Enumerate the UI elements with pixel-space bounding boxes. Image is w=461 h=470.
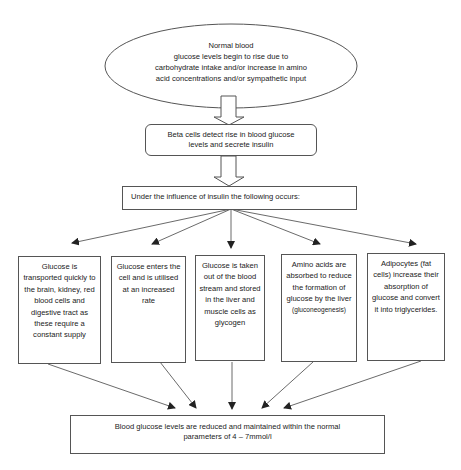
start-node-line: glucose levels begin to rise due to	[125, 51, 337, 62]
effect-note: (gluconeogenesis)	[285, 305, 353, 314]
effect-text: Glucose is transported quickly to the br…	[23, 262, 95, 339]
start-node-line: acid concentrations and/or sympathetic i…	[125, 73, 337, 84]
beta-cells-node: Beta cells detect rise in blood glucose …	[145, 124, 317, 156]
start-node-text: Normal blood glucose levels begin to ris…	[125, 40, 337, 84]
start-node-line: carbohydrate intake and/or increase in a…	[125, 62, 337, 73]
effect-box-utilisation: Glucose enters the cell and is utilised …	[111, 256, 186, 363]
insulin-influence-node: Under the influence of insulin the follo…	[122, 186, 357, 210]
effect-text: Glucose enters the cell and is utilised …	[117, 262, 181, 305]
fan-out-arrows	[72, 209, 416, 248]
effect-box-adipocytes: Adipocytes (fat cells) increase their ab…	[367, 253, 445, 361]
effect-text: Adipocytes (fat cells) increase their ab…	[372, 259, 440, 314]
result-node-line: parameters of 4 – 7mmol/l	[71, 432, 384, 442]
result-node: Blood glucose levels are reduced and mai…	[70, 415, 385, 454]
start-node-line: Normal blood	[125, 40, 337, 51]
effect-box-transport: Glucose is transported quickly to the br…	[18, 256, 101, 364]
influence-node-text: Under the influence of insulin the follo…	[131, 192, 300, 201]
effect-text: Amino acids are absorbed to reduce the f…	[286, 260, 351, 303]
beta-node-line: levels and secrete insulin	[146, 140, 316, 150]
converge-arrows	[48, 361, 421, 409]
result-node-line: Blood glucose levels are reduced and mai…	[71, 422, 384, 432]
effect-box-glycogen: Glucose is taken out of the blood stream…	[195, 255, 265, 361]
beta-node-line: Beta cells detect rise in blood glucose	[146, 130, 316, 140]
effect-box-amino-acids: Amino acids are absorbed to reduce the f…	[281, 254, 357, 362]
effect-text: Glucose is taken out of the blood stream…	[199, 261, 260, 327]
block-arrow-down-icon	[214, 156, 244, 186]
